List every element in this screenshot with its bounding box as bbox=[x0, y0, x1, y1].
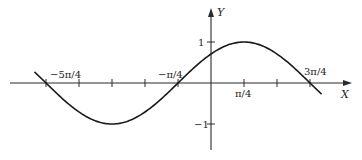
x-axis-label: X bbox=[340, 88, 350, 101]
y-axis-arrow-icon bbox=[208, 8, 214, 17]
x-tick-label-pi4: π/4 bbox=[235, 88, 251, 99]
y-axis-label: Y bbox=[217, 6, 226, 19]
y-tick-label-1: 1 bbox=[198, 37, 204, 48]
x-tick-label-neg5pi4: −5π/4 bbox=[50, 69, 81, 80]
x-axis-arrow-icon bbox=[343, 80, 352, 86]
x-tick-label-negpi4: −π/4 bbox=[158, 69, 183, 80]
y-tick-label-neg1: −1 bbox=[194, 119, 209, 130]
sine-graph: Y X 1 −1 −5π/4 −π/4 π/4 3π/4 bbox=[0, 0, 362, 160]
x-tick-label-3pi4: 3π/4 bbox=[304, 66, 327, 77]
